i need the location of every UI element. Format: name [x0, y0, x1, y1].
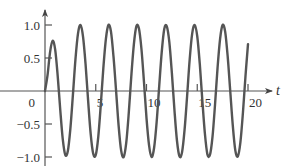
- x-axis-label: t: [276, 83, 281, 98]
- y-tick-label: 0.5: [24, 51, 40, 66]
- y-tick-label: −1.0: [16, 150, 40, 165]
- y-tick-label: 1.0: [24, 18, 40, 33]
- x-tick-label: 15: [198, 95, 211, 110]
- x-tick-label: 0: [29, 95, 36, 110]
- x-tick-label: 20: [249, 95, 262, 110]
- chart: 1.00.5−0.5−1.0 05101520 t: [0, 0, 288, 168]
- y-tick-label: −0.5: [16, 117, 40, 132]
